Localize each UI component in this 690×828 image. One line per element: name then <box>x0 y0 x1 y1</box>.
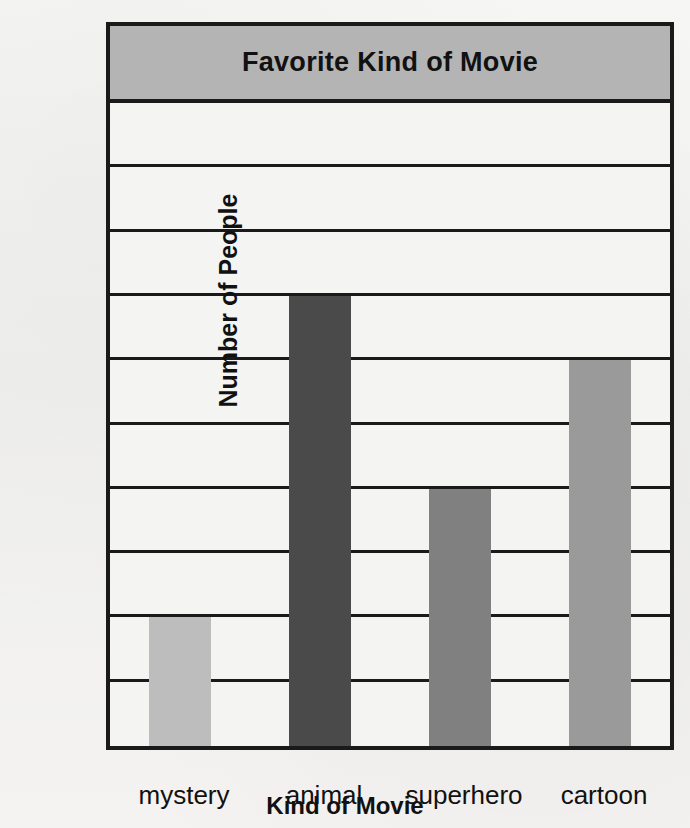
bar-mystery <box>149 617 211 746</box>
gridline <box>110 164 670 167</box>
bar-animal <box>289 296 351 746</box>
gridline <box>110 100 670 103</box>
chart-title-band: Favorite Kind of Movie <box>110 26 670 103</box>
bar-cartoon <box>569 360 631 746</box>
y-axis-title: Number of People <box>214 171 243 431</box>
bar-superhero <box>429 489 491 746</box>
gridline <box>110 293 670 296</box>
bar-chart: Favorite Kind of Movie Number of People … <box>106 22 674 750</box>
chart-title: Favorite Kind of Movie <box>242 47 538 78</box>
x-axis-title: Kind of Movie <box>0 792 690 820</box>
plot-area <box>110 103 670 746</box>
gridline <box>110 229 670 232</box>
